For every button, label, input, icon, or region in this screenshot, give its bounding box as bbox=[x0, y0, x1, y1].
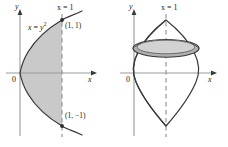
origin-label: 0 bbox=[126, 76, 130, 84]
solid-plot-svg bbox=[114, 0, 228, 147]
x-axis-label: x bbox=[88, 76, 92, 84]
curve-equation-label: x=y2 bbox=[28, 24, 46, 32]
point-label-upper: (1, 1) bbox=[65, 22, 81, 30]
curve-equation-rel: = bbox=[34, 23, 39, 32]
figure-root: y x 0 x = 1 x=y2 (1, 1) (1, −1) bbox=[0, 0, 228, 147]
point-marker-lower bbox=[60, 124, 64, 128]
curve-equation-lhs: x bbox=[28, 23, 32, 32]
x-axis-label: x bbox=[208, 76, 212, 84]
panel-solid-plot: y x 0 x = 1 bbox=[114, 0, 228, 147]
axis-of-revolution-label: x = 1 bbox=[161, 4, 178, 12]
washer-inner-ellipse bbox=[137, 40, 195, 54]
y-axis-label: y bbox=[129, 3, 133, 11]
curve-equation-exponent: 2 bbox=[44, 21, 47, 27]
vertical-line-label: x = 1 bbox=[57, 4, 74, 12]
panel-region-plot: y x 0 x = 1 x=y2 (1, 1) (1, −1) bbox=[0, 0, 114, 147]
point-label-lower: (1, −1) bbox=[65, 112, 85, 120]
region-plot-svg bbox=[0, 0, 114, 147]
point-marker-upper bbox=[60, 18, 64, 22]
origin-label: 0 bbox=[12, 76, 16, 84]
y-axis-label: y bbox=[15, 3, 19, 11]
